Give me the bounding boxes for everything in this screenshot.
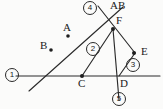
point-label-f: F [116, 15, 122, 26]
point-label-e: E [141, 46, 148, 57]
point-label-c: C [78, 78, 85, 89]
circled-number-5: 5 [112, 92, 126, 106]
vertex-marker-f [111, 27, 115, 31]
geometry-diagram: A B AB F E C D 1 2 3 4 5 [0, 0, 163, 109]
vertex-marker-a [66, 34, 70, 38]
circled-number-2: 2 [86, 42, 100, 56]
vertex-marker-b [49, 48, 53, 52]
point-label-b: B [40, 40, 47, 51]
point-label-d: D [120, 78, 128, 89]
circled-number-1: 1 [5, 68, 19, 82]
circled-number-4: 4 [83, 1, 97, 15]
geometry-canvas [0, 0, 163, 109]
vertex-marker-e [132, 51, 136, 55]
point-label-a: A [63, 22, 71, 33]
point-label-ab: AB [110, 0, 125, 11]
vertical-line-f-to-bottom [113, 29, 119, 100]
circled-number-3: 3 [126, 58, 140, 72]
